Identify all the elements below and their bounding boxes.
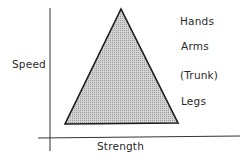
triangle-shape	[65, 9, 178, 124]
body-part-trunk-label: (Trunk)	[180, 69, 218, 81]
y-axis-label: Speed	[12, 58, 46, 70]
body-part-arms-label: Arms	[181, 40, 209, 52]
body-part-hands-label: Hands	[180, 15, 214, 27]
x-axis-label: Strength	[97, 140, 144, 152]
body-part-legs-label: Legs	[181, 95, 206, 107]
x-axis-line	[38, 136, 240, 138]
